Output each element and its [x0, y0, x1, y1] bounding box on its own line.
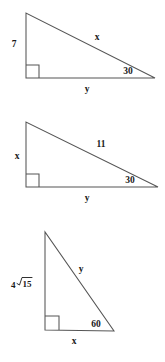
triangle-3-horizontal-leg-label: x	[72, 336, 77, 346]
triangle-1-horizontal-leg-label: y	[85, 84, 90, 94]
triangle-3: 4 15 y x 60	[11, 232, 114, 346]
triangle-1-outline	[26, 13, 155, 78]
triangle-1-angle-label: 30	[123, 66, 133, 76]
triangle-3-hypotenuse-label: y	[79, 264, 84, 274]
triangle-2-vertical-leg-label: x	[15, 151, 20, 161]
triangle-2-right-angle-icon	[26, 174, 39, 187]
triangle-3-leg-radicand: 15	[23, 279, 33, 289]
triangle-2-horizontal-leg-label: y	[85, 193, 90, 203]
triangle-3-leg-coefficient: 4	[11, 280, 16, 290]
triangle-1-right-angle-icon	[26, 65, 39, 78]
triangle-2-outline	[26, 122, 158, 187]
figure-root: 7 x y 30 x 11 y 30 4 15 y x 60	[0, 0, 165, 362]
triangles-figure: 7 x y 30 x 11 y 30 4 15 y x 60	[0, 0, 165, 362]
triangle-3-vertical-leg-label: 4 15	[11, 278, 32, 291]
triangle-2-hypotenuse-label: 11	[97, 139, 106, 149]
triangle-3-angle-label: 60	[91, 319, 101, 329]
triangle-1-vertical-leg-label: 7	[12, 39, 17, 49]
triangle-1: 7 x y 30	[12, 13, 155, 94]
triangle-1-hypotenuse-label: x	[95, 32, 100, 42]
triangle-2: x 11 y 30	[15, 122, 158, 203]
triangle-2-angle-label: 30	[125, 175, 135, 185]
triangle-3-right-angle-icon	[45, 316, 59, 330]
